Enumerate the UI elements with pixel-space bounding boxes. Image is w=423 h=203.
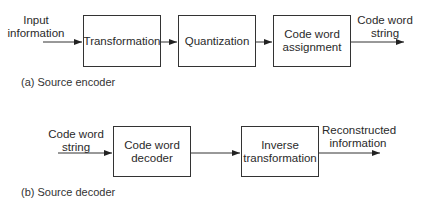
decoder-input-label: Code word string — [46, 128, 106, 154]
decoder-caption: (b) Source decoder — [21, 186, 115, 198]
code-word-decoder-label-line1: Code word — [124, 139, 180, 152]
quantization-block-label: Quantization — [185, 35, 250, 48]
inverse-transformation-label-line2: transformation — [243, 152, 317, 165]
encoder-input-label-line2: information — [4, 27, 68, 40]
code-word-assignment-label-line1: Code word — [283, 28, 342, 41]
decoder-input-label-line2: string — [46, 141, 106, 154]
encoder-output-label: Code word string — [350, 14, 420, 40]
code-word-decoder-label-line2: decoder — [124, 152, 180, 165]
code-word-decoder-block: Code word decoder — [113, 126, 191, 177]
inverse-transformation-block: Inverse transformation — [241, 126, 319, 177]
decoder-output-label: Reconstructed information — [322, 124, 394, 150]
encoder-input-label: Input information — [4, 14, 68, 40]
encoder-output-label-line1: Code word — [350, 14, 420, 27]
transformation-block: Transformation — [83, 15, 161, 67]
encoder-input-label-line1: Input — [4, 14, 68, 27]
decoder-output-label-line1: Reconstructed — [322, 124, 394, 137]
inverse-transformation-label-line1: Inverse — [243, 139, 317, 152]
code-word-assignment-label-line2: assignment — [283, 41, 342, 54]
quantization-block: Quantization — [178, 15, 256, 67]
decoder-output-label-line2: information — [322, 137, 394, 150]
encoder-caption: (a) Source encoder — [21, 76, 115, 88]
decoder-input-label-line1: Code word — [46, 128, 106, 141]
code-word-assignment-block: Code word assignment — [273, 15, 351, 67]
transformation-block-label: Transformation — [84, 35, 161, 48]
encoder-output-label-line2: string — [350, 27, 420, 40]
